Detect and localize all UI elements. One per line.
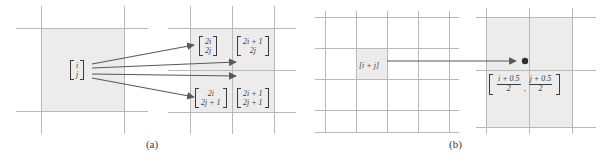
panel-b-point-marker — [522, 58, 528, 64]
panel-b-target-label: i + 0.5 2 , j + 0.5 2 — [489, 74, 560, 98]
fraction-second: j + 0.5 2 — [527, 75, 555, 94]
source-vector-row-0: i — [76, 61, 78, 70]
bracket-right — [265, 36, 269, 56]
panel-a-right-gridlines — [168, 6, 296, 134]
target-br-row-0: 2i + 1 — [243, 89, 263, 98]
panel-a-target-top-right: 2i + 1 2j — [237, 36, 269, 59]
panel-a-target-bottom-right: 2i + 1 2j + 1 — [237, 88, 269, 111]
fraction-first: i + 0.5 2 — [495, 75, 523, 94]
fraction-first-denominator: 2 — [497, 84, 521, 94]
panel-a-target-top-left: 2i 2j — [199, 36, 217, 59]
panel-b-stage: [i + j] i + 0.5 2 , j + 0.5 2 — [304, 0, 607, 140]
target-bl-row-0: 2i — [208, 89, 214, 98]
panel-b-graphics — [304, 0, 607, 140]
panel-b-source-label: [i + j] — [357, 55, 381, 71]
panel-a-target-bottom-left: 2i 2j + 1 — [195, 88, 227, 111]
fraction-first-numerator: i + 0.5 — [497, 75, 521, 84]
panel-a-caption: (a) — [0, 138, 304, 150]
target-tl-row-0: 2i — [205, 37, 211, 46]
panel-b: [i + j] i + 0.5 2 , j + 0.5 2 — [304, 0, 607, 167]
target-tr-row-1: 2j — [250, 46, 256, 55]
panel-a-source-label: i j — [70, 60, 84, 83]
source-vector-row-1: j — [76, 70, 78, 79]
panel-a: i j 2i 2j — [0, 0, 304, 167]
panel-b-left-gridlines — [315, 11, 459, 132]
panel-b-source-text: [i + j] — [357, 60, 381, 71]
bracket-right — [556, 74, 560, 95]
bracket-right — [223, 88, 227, 108]
target-tl-row-1: 2j — [205, 46, 211, 55]
target-br-row-1: 2j + 1 — [243, 98, 263, 107]
bracket-right — [265, 88, 269, 108]
figure-container: i j 2i 2j — [0, 0, 607, 167]
panel-b-caption: (b) — [304, 138, 607, 150]
panel-a-graphics — [0, 0, 304, 140]
fraction-second-denominator: 2 — [529, 84, 553, 94]
target-bl-row-1: 2j + 1 — [201, 98, 221, 107]
bracket-right — [213, 36, 217, 56]
bracket-right — [80, 60, 84, 80]
panel-a-stage: i j 2i 2j — [0, 0, 304, 140]
target-tr-row-0: 2i + 1 — [243, 37, 263, 46]
fraction-second-numerator: j + 0.5 — [529, 75, 553, 84]
